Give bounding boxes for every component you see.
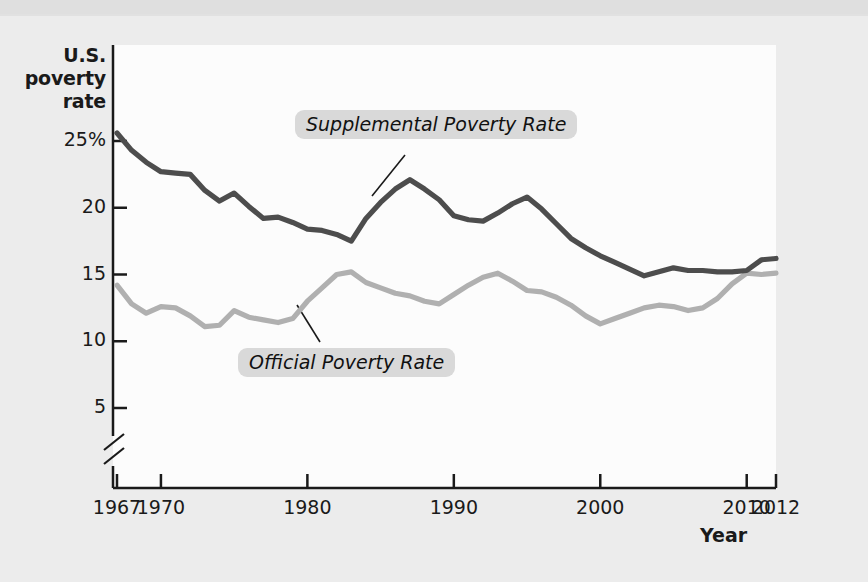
series-layer bbox=[117, 133, 776, 327]
series-line-supplemental-poverty-rate bbox=[117, 133, 776, 276]
series-line-official-poverty-rate bbox=[117, 272, 776, 327]
chart-svg bbox=[0, 0, 868, 582]
y-axis-break-slash-1 bbox=[104, 434, 124, 450]
y-axis-break-slash-2 bbox=[104, 448, 124, 464]
poverty-rate-figure: U.S. poverty rate Year 25%2015105 196719… bbox=[0, 0, 868, 582]
supplemental-label-leader bbox=[372, 155, 405, 196]
